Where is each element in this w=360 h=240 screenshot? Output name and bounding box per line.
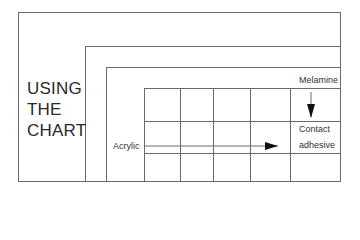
row-label-acrylic: Acrylic [113,141,140,151]
column-label-melamine: Melamine [299,75,338,85]
intersection-label-1: Contact [299,124,330,134]
intersection-label-2: adhesive [299,140,335,150]
title-line-2: THE [27,99,86,120]
title-line-3: CHART [27,120,86,141]
title-line-1: USING [27,78,86,99]
down-arrow-icon [307,92,315,118]
chart-title: USING THE CHART [27,78,86,141]
right-arrow-icon [144,142,278,150]
